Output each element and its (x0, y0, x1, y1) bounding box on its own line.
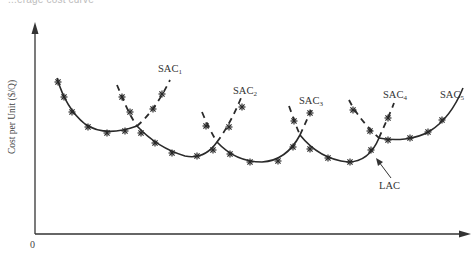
sac2-label-text: SAC (233, 85, 253, 96)
sac2-label-sub: 2 (253, 90, 257, 98)
lac-pointer-arrow (376, 158, 391, 178)
sac5-label-text: SAC (440, 89, 460, 100)
sac5-label-sub: 5 (460, 94, 464, 102)
y-axis (32, 22, 39, 234)
sac5-label: SAC5 (440, 89, 464, 102)
lac-label: LAC (379, 180, 400, 191)
sac3-label-text: SAC (299, 95, 319, 106)
sac4-label-sub: 4 (403, 94, 407, 102)
sac1-label: SAC1 (158, 63, 182, 76)
sac1-label-text: SAC (158, 63, 178, 74)
x-axis (35, 231, 471, 238)
sac4-label-text: SAC (383, 89, 403, 100)
sac3-label-sub: 3 (319, 100, 323, 108)
sac3-label: SAC3 (299, 95, 323, 108)
chart-plot (0, 0, 476, 255)
sac4-label: SAC4 (383, 89, 407, 102)
y-axis-label: Cost per Unit ($/Q) (7, 57, 17, 177)
sac2-label: SAC2 (233, 85, 257, 98)
origin-label: 0 (30, 239, 35, 250)
sac1-label-sub: 1 (178, 68, 182, 76)
cost-curve-chart: ...erage cost curve (0, 0, 476, 255)
